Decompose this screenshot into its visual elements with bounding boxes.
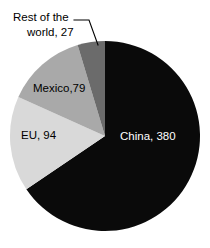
pie-label-eu: EU, 94 [21,129,57,141]
pie-chart-svg: China, 380 EU, 94 Mexico,79 Rest of the … [0,0,210,248]
pie-label-rest-of-world-line1: Rest of the [13,11,69,23]
pie-chart: China, 380 EU, 94 Mexico,79 Rest of the … [0,0,210,248]
pie-label-china: China, 380 [120,130,176,142]
pie-label-rest-of-world-line2: world, 27 [26,26,74,38]
pie-label-mexico: Mexico,79 [33,82,85,94]
